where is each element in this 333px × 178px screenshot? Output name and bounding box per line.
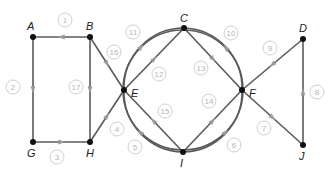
svg-text:1: 1 — [63, 16, 68, 25]
node-J — [300, 142, 306, 148]
svg-text:17: 17 — [72, 83, 81, 92]
edge-number-badge: 7 — [257, 121, 271, 135]
node-label-B: B — [86, 20, 93, 32]
edge-number-badge: 9 — [263, 41, 277, 55]
svg-text:11: 11 — [129, 28, 138, 37]
edge-number-badge: 6 — [227, 138, 241, 152]
node-G — [30, 139, 36, 145]
graph-diagram: 1234567891011121314151617 ABCDEFGHIJ — [0, 0, 333, 178]
edge-number-badge: 10 — [224, 26, 238, 40]
node-D — [300, 36, 306, 42]
edge-number-badge: 14 — [202, 94, 216, 108]
node-I — [180, 149, 186, 155]
edge-17-arrow-icon — [88, 86, 93, 93]
node-A — [30, 34, 36, 40]
svg-text:8: 8 — [315, 88, 320, 97]
edge-number-badge: 8 — [310, 85, 324, 99]
node-E — [121, 87, 127, 93]
svg-text:3: 3 — [55, 153, 60, 162]
svg-text:12: 12 — [155, 70, 164, 79]
edge-number-badge: 12 — [152, 67, 166, 81]
edge-number-badge: 13 — [194, 61, 208, 75]
svg-text:9: 9 — [268, 44, 273, 53]
svg-text:2: 2 — [11, 83, 16, 92]
edge-number-badge: 11 — [126, 25, 140, 39]
edge-4-arrow-icon — [103, 113, 109, 120]
node-label-E: E — [131, 87, 139, 99]
edge-16-arrow-icon — [103, 60, 109, 67]
edge-8-arrow-icon — [301, 88, 306, 95]
node-label-A: A — [26, 20, 34, 32]
svg-text:14: 14 — [205, 97, 214, 106]
node-label-G: G — [27, 147, 36, 159]
nodes-layer: ABCDEFGHIJ — [26, 12, 307, 169]
edge-number-badge: 2 — [6, 80, 20, 94]
svg-text:15: 15 — [161, 107, 170, 116]
node-label-I: I — [180, 157, 183, 169]
edge-number-badge: 1 — [58, 13, 72, 27]
node-label-J: J — [298, 150, 305, 162]
node-label-F: F — [249, 87, 257, 99]
edge-2-arrow-icon — [31, 86, 36, 93]
edge-1-arrow-icon — [58, 35, 65, 40]
node-C — [181, 25, 187, 31]
node-F — [239, 87, 245, 93]
node-label-D: D — [299, 22, 307, 34]
node-label-H: H — [86, 147, 94, 159]
svg-text:10: 10 — [227, 29, 236, 38]
svg-text:4: 4 — [115, 125, 120, 134]
svg-text:7: 7 — [262, 124, 267, 133]
graph-canvas: 1234567891011121314151617 ABCDEFGHIJ — [0, 0, 333, 178]
edge-number-badge: 17 — [69, 80, 83, 94]
svg-text:6: 6 — [232, 141, 237, 150]
svg-text:16: 16 — [110, 48, 119, 57]
edge-number-badge: 15 — [158, 104, 172, 118]
edge-number-badge: 5 — [128, 140, 142, 154]
node-label-C: C — [180, 12, 188, 24]
edge-number-badge: 4 — [110, 122, 124, 136]
node-H — [87, 139, 93, 145]
svg-text:13: 13 — [197, 64, 206, 73]
edge-number-badge: 3 — [50, 150, 64, 164]
edge-3-arrow-icon — [58, 140, 65, 145]
svg-text:5: 5 — [133, 143, 138, 152]
edge-number-badge: 16 — [107, 45, 121, 59]
node-B — [87, 34, 93, 40]
